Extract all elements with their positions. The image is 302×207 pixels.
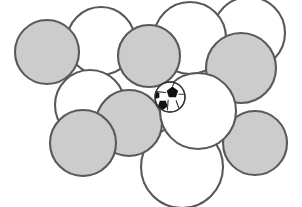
sphere-top-center-shaded <box>118 25 180 87</box>
sphere-top-left-shaded <box>15 20 79 84</box>
sphere-packing-figure <box>0 0 302 207</box>
sphere-packing-canvas <box>0 0 302 207</box>
sphere-lower-left-shaded <box>50 110 116 176</box>
